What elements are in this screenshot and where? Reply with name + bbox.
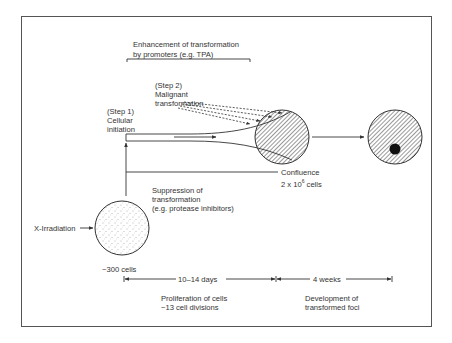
suppression-label-3: (e.g. protease inhibitors) [152,204,234,213]
diagram-art [0,0,452,343]
foci-dish [368,110,422,164]
xirradiation-label: X-Irradiation [34,224,75,233]
transformed-focus [390,144,401,155]
suppression-label-2: transformation [152,195,201,204]
timeline [124,276,392,282]
enhancement-label-1: Enhancement of transformation [133,40,239,49]
enhancement-label-2: by promoters (e.g. TPA) [133,50,213,59]
confluence-label-2: 2 x 106 cells [281,177,322,189]
step2-label-3: transformation [155,99,204,108]
phase2-label-1: Development of [305,294,358,303]
initial-dish [95,201,149,255]
step1-label-2: Cellular [107,116,133,125]
phase1-label-2: ~13 cell divisions [161,303,219,312]
phase1-duration: 10–14 days [178,275,217,284]
step1-label-1: (Step 1) [107,107,134,116]
step2-label-2: Malignant [155,90,188,99]
phase2-label-2: transformed foci [305,303,359,312]
step1-label-3: initiation [107,125,135,134]
phase2-duration: 4 weeks [313,275,341,284]
confluent-dish [255,110,309,164]
step2-label-1: (Step 2) [155,81,182,90]
phase1-label-1: Proliferation of cells [161,294,227,303]
initial-cells-label: ~300 cells [102,265,136,274]
confluence-label-1: Confluence [281,168,319,177]
suppression-label-1: Suppression of [152,186,203,195]
enhancement-bracket [127,59,250,62]
